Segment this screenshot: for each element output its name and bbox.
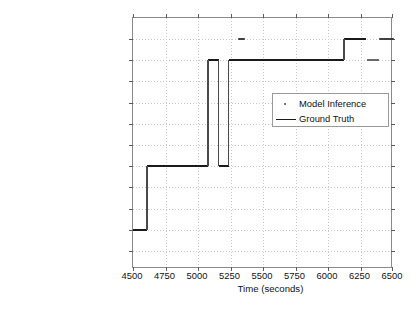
y-axis-tick-labels: Use The BathroomMake EspressoMake TeaMak… (0, 0, 128, 310)
x-axis-tick-label: 5500 (252, 270, 273, 281)
grid-line-horizontal (133, 209, 391, 210)
grid-line-horizontal (133, 187, 391, 188)
x-axis-tick-label: 5000 (187, 270, 208, 281)
chart-legend: Model Inference Ground Truth (272, 93, 389, 127)
data-series-segment (147, 165, 208, 168)
x-axis-tick-labels: 450047505000525055005750600062506500 (0, 270, 411, 284)
legend-label: Ground Truth (299, 113, 354, 124)
dot-marker-icon (273, 98, 299, 110)
y-axis-tick-right (391, 209, 395, 210)
y-axis-tick (129, 39, 133, 40)
y-axis-tick-right (391, 166, 395, 167)
y-axis-tick-right (391, 230, 395, 231)
y-axis-tick (129, 166, 133, 167)
data-series-transition (146, 166, 147, 230)
x-axis-tick-top (198, 14, 199, 18)
data-point-marker (242, 38, 244, 40)
y-axis-tick-right (391, 187, 395, 188)
x-axis-tick-label: 5750 (284, 270, 305, 281)
x-axis-tick-top (263, 14, 264, 18)
x-axis-tick-top (133, 14, 134, 18)
x-axis-tick-top (296, 14, 297, 18)
x-axis-title-text: Time (seconds) (238, 283, 304, 294)
y-axis-tick-right (391, 103, 395, 104)
x-axis-tick-top (166, 14, 167, 18)
x-axis-title: Time (seconds) (0, 283, 411, 294)
data-series-segment (344, 38, 366, 41)
y-axis-tick (129, 145, 133, 146)
data-series-segment (133, 229, 147, 232)
y-axis-tick-right (391, 60, 395, 61)
y-axis-tick (129, 251, 133, 252)
data-series-transition (228, 60, 229, 166)
x-axis-tick-top (328, 14, 329, 18)
x-axis-tick-label: 6000 (317, 270, 338, 281)
data-series-transition (343, 39, 344, 60)
grid-line-horizontal (133, 145, 391, 146)
plot-area (132, 17, 392, 268)
x-axis-tick-top (392, 14, 393, 18)
chart-figure: Use The BathroomMake EspressoMake TeaMak… (0, 0, 411, 310)
data-point-marker (391, 38, 393, 40)
y-axis-tick-right (391, 124, 395, 125)
data-series-segment (229, 59, 344, 62)
legend-item-ground-truth: Ground Truth (273, 111, 388, 126)
y-axis-tick (129, 60, 133, 61)
grid-line-horizontal (133, 251, 391, 252)
y-axis-tick (129, 209, 133, 210)
y-axis-tick (129, 81, 133, 82)
y-axis-tick-right (391, 81, 395, 82)
x-axis-tick-label: 4750 (154, 270, 175, 281)
y-axis-tick-right (391, 145, 395, 146)
grid-line-horizontal (133, 230, 391, 231)
line-marker-icon (273, 113, 299, 125)
grid-line-horizontal (133, 81, 391, 82)
x-axis-tick-label: 5250 (219, 270, 240, 281)
x-axis-tick-top (361, 14, 362, 18)
legend-item-model-inference: Model Inference (273, 96, 388, 111)
x-axis-tick-top (231, 14, 232, 18)
y-axis-tick-right (391, 251, 395, 252)
x-axis-tick-label: 6500 (382, 270, 403, 281)
y-axis-tick (129, 187, 133, 188)
legend-label: Model Inference (299, 98, 366, 109)
x-axis-tick-label: 4500 (122, 270, 143, 281)
data-series-transition (207, 60, 208, 166)
y-axis-tick (129, 103, 133, 104)
y-axis-tick (129, 124, 133, 125)
x-axis-tick-label: 6250 (349, 270, 370, 281)
data-series-transition (218, 60, 219, 166)
